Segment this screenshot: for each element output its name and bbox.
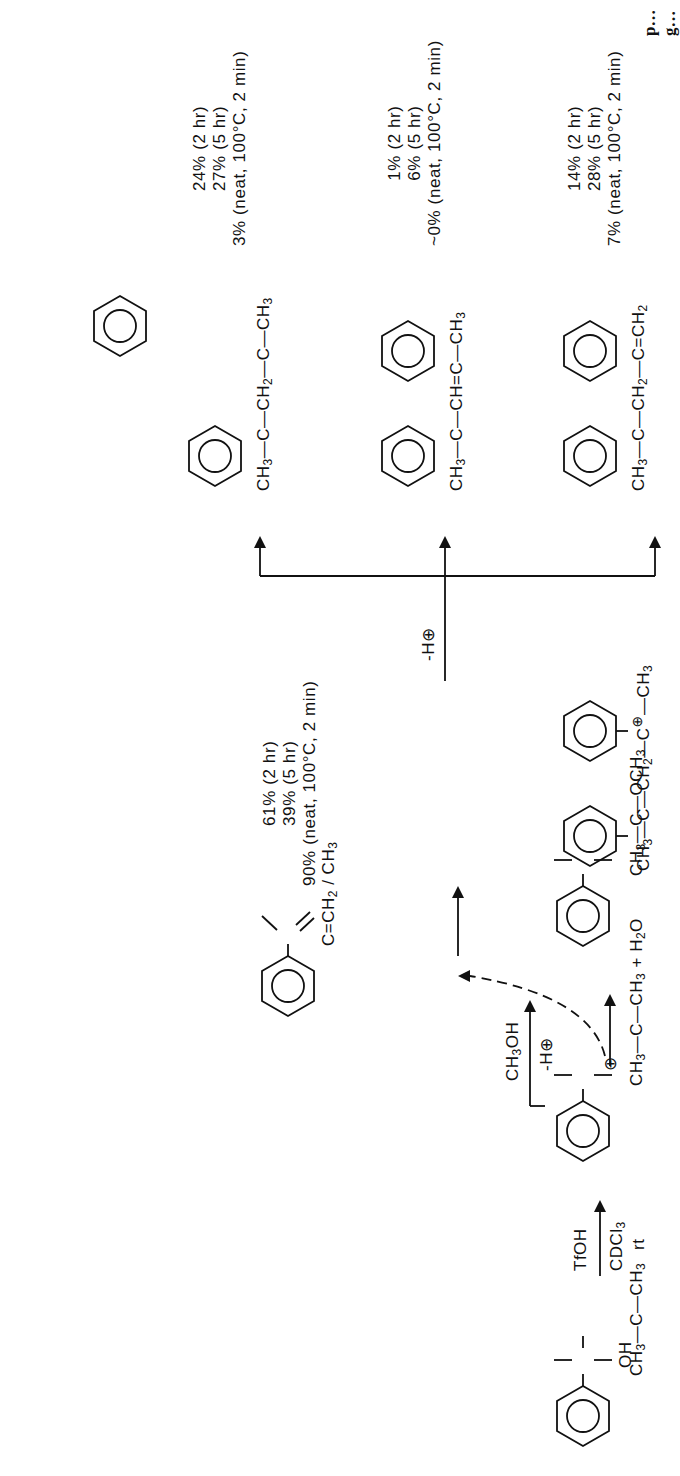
product-2-label: CH3—C—CH=C—CH3 <box>448 311 467 491</box>
product-1-yields: 14% (2 hr) 28% (5 hr) 7% (neat, 100°C, 2… <box>565 51 625 246</box>
benzene-ring-icon <box>554 1336 612 1446</box>
cation-label: CH3—C—CH3 + H2O <box>628 918 647 1086</box>
cation-charge: ⊕ <box>602 1056 619 1071</box>
product-2-yields: 1% (2 hr) 6% (5 hr) ~0% (neat, 100°C, 2 … <box>385 40 445 246</box>
reagent-cdcl3: CDCl3 <box>608 1221 627 1271</box>
product-1-label: CH3—C—CH2—C=CH2 <box>630 304 649 491</box>
start-label-oh: OH <box>617 1342 634 1369</box>
ams-label: C=CH2 / CH3 <box>320 842 339 946</box>
product-3-yields: 24% (2 hr) 27% (5 hr) 3% (neat, 100°C, 2… <box>190 51 250 246</box>
methanol-reagent: CH3OH <box>504 1022 523 1081</box>
deprotonation-label: -H⊕ <box>420 627 437 661</box>
product-3-label: CH3—C—CH2—C—CH3 <box>255 297 274 491</box>
ams-yields: 61% (2 hr) 39% (5 hr) 90% (neat, 100°C, … <box>260 681 320 886</box>
reagent-rt: rt <box>630 1239 647 1250</box>
dimer-cation-label: CH3—C—CH2—C⊕—CH3 <box>630 665 654 871</box>
reagent-tfoh: TfOH <box>572 1228 589 1271</box>
methanol-loss: -H⊕ <box>538 1037 555 1071</box>
